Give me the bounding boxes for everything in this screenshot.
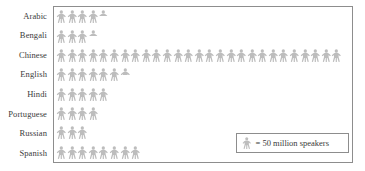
person-icon (242, 137, 252, 149)
person-icon (67, 10, 78, 23)
person-icon (77, 146, 88, 159)
category-label-hindi: Hindi (0, 85, 50, 105)
pictograph-row-portuguese (54, 104, 352, 123)
person-icon (56, 49, 67, 62)
person-icon (98, 146, 109, 159)
person-icon (88, 49, 99, 62)
person-icon (56, 10, 67, 23)
category-label-arabic: Arabic (0, 6, 50, 26)
person-icon (257, 49, 268, 62)
person-icon (56, 88, 67, 101)
category-label-english: English (0, 65, 50, 85)
person-icon (77, 30, 88, 43)
person-icon (109, 146, 120, 159)
person-icon-half (88, 30, 99, 43)
person-icon (120, 49, 131, 62)
person-icon (109, 49, 120, 62)
person-icon (56, 126, 67, 139)
person-icon-half (120, 68, 131, 81)
pictograph-row-chinese (54, 46, 352, 65)
person-icon (88, 10, 99, 23)
person-icon (67, 68, 78, 81)
person-icon (67, 126, 78, 139)
person-icon (88, 68, 99, 81)
person-icon (141, 49, 152, 62)
person-icon (56, 30, 67, 43)
person-icon (77, 107, 88, 120)
person-icon (77, 126, 88, 139)
person-icon (236, 49, 247, 62)
person-icon (88, 107, 99, 120)
person-icon (130, 49, 141, 62)
person-icon (98, 68, 109, 81)
person-icon (67, 49, 78, 62)
person-icon (215, 49, 226, 62)
person-icon (162, 49, 173, 62)
person-icon (67, 88, 78, 101)
category-label-portuguese: Portuguese (0, 104, 50, 124)
person-icon (67, 107, 78, 120)
person-icon (67, 30, 78, 43)
person-icon (183, 49, 194, 62)
person-icon (109, 68, 120, 81)
person-icon (310, 49, 321, 62)
person-icon-half (98, 10, 109, 23)
person-icon (88, 146, 99, 159)
person-icon (98, 88, 109, 101)
person-icon (321, 49, 332, 62)
person-icon (77, 10, 88, 23)
pictograph-row-bengali (54, 26, 352, 45)
person-icon (67, 146, 78, 159)
person-icon (173, 49, 184, 62)
person-icon (331, 49, 342, 62)
person-icon (56, 68, 67, 81)
person-icon (204, 49, 215, 62)
person-icon (56, 146, 67, 159)
legend-label: = 50 million speakers (256, 139, 330, 148)
person-icon (278, 49, 289, 62)
person-icon (300, 49, 311, 62)
plot-frame: = 50 million speakers (53, 6, 353, 163)
person-icon (130, 146, 141, 159)
person-icon (88, 88, 99, 101)
pictograph-row-hindi (54, 85, 352, 104)
person-icon (151, 49, 162, 62)
person-icon (77, 88, 88, 101)
pictograph-row-english (54, 65, 352, 84)
person-icon (77, 49, 88, 62)
person-icon (194, 49, 205, 62)
person-icon (289, 49, 300, 62)
category-label-russian: Russian (0, 124, 50, 144)
person-icon (98, 49, 109, 62)
category-label-spanish: Spanish (0, 143, 50, 163)
person-icon (226, 49, 237, 62)
category-axis-labels: ArabicBengaliChineseEnglishHindiPortugue… (0, 6, 50, 163)
person-icon (56, 107, 67, 120)
pictograph-row-arabic (54, 7, 352, 26)
person-icon (120, 146, 131, 159)
category-label-chinese: Chinese (0, 45, 50, 65)
category-label-bengali: Bengali (0, 26, 50, 46)
legend: = 50 million speakers (236, 133, 349, 153)
person-icon (268, 49, 279, 62)
person-icon (247, 49, 258, 62)
person-icon (77, 68, 88, 81)
pictograph-chart: ArabicBengaliChineseEnglishHindiPortugue… (0, 0, 365, 171)
